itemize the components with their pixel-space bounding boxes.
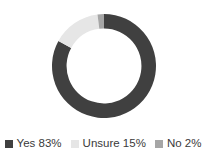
square-swatch-icon (5, 140, 13, 148)
donut-chart-plot-area (0, 0, 206, 128)
square-swatch-icon (71, 140, 79, 148)
donut-chart-widget: Yes 83% Unsure 15% No 2% (0, 0, 206, 160)
legend-item-label: Unsure 15% (83, 138, 146, 150)
chart-legend: Yes 83% Unsure 15% No 2% (0, 135, 206, 153)
legend-item-label: No 2% (167, 138, 202, 150)
square-swatch-icon (155, 140, 163, 148)
legend-item-label: Yes 83% (17, 138, 62, 150)
donut-chart-svg (51, 13, 157, 119)
legend-item-unsure[interactable]: Unsure 15% (71, 138, 146, 150)
donut-slice-unsure[interactable] (58, 14, 99, 48)
donut-slice-group (52, 14, 156, 118)
legend-item-no[interactable]: No 2% (155, 138, 202, 150)
legend-item-yes[interactable]: Yes 83% (5, 138, 62, 150)
